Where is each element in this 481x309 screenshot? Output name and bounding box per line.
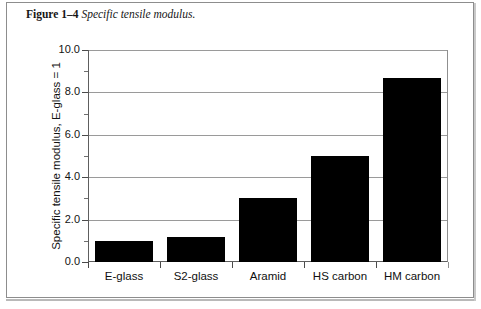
y-tick-minor [84, 241, 88, 242]
y-axis-title-container: Specific tensile modulus, E-glass = 1 [22, 50, 38, 262]
bar-chart: Specific tensile modulus, E-glass = 1 0.… [0, 0, 481, 309]
gridline [89, 50, 447, 51]
y-tick-label: 0.0 [38, 255, 80, 267]
x-tick-label: HM carbon [376, 270, 448, 282]
y-tick-major [82, 220, 88, 221]
y-tick-major [82, 135, 88, 136]
bar [383, 78, 441, 262]
y-tick-label: 4.0 [38, 170, 80, 182]
bar [167, 237, 225, 262]
x-tick [376, 262, 377, 268]
x-tick-label: E-glass [88, 270, 160, 282]
x-tick-label: Aramid [232, 270, 304, 282]
y-tick-major [82, 177, 88, 178]
y-tick-label: 8.0 [38, 85, 80, 97]
y-axis-title: Specific tensile modulus, E-glass = 1 [50, 36, 62, 276]
x-tick [304, 262, 305, 268]
y-tick-minor [84, 114, 88, 115]
x-tick [160, 262, 161, 268]
y-tick-major [82, 92, 88, 93]
y-tick-label: 10.0 [38, 43, 80, 55]
bar [95, 241, 153, 262]
y-tick-major [82, 50, 88, 51]
y-tick-minor [84, 156, 88, 157]
x-axis-origin-tick [88, 262, 89, 268]
y-tick-minor [84, 71, 88, 72]
y-tick-label: 2.0 [38, 213, 80, 225]
bar [239, 198, 297, 262]
figure-page: Figure 1–4 Specific tensile modulus. Spe… [0, 0, 481, 309]
top-right-tick [447, 50, 448, 56]
x-tick-label: HS carbon [304, 270, 376, 282]
bar [311, 156, 369, 262]
y-tick-label: 6.0 [38, 128, 80, 140]
x-axis-end-tick [448, 262, 449, 268]
y-tick-minor [84, 198, 88, 199]
x-tick-label: S2-glass [160, 270, 232, 282]
x-tick [232, 262, 233, 268]
